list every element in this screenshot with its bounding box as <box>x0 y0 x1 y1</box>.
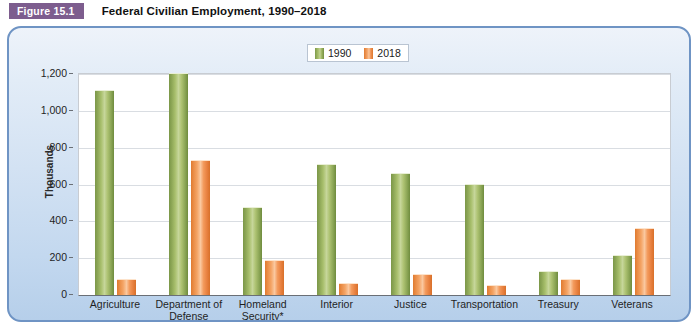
legend-label-1990: 1990 <box>328 47 351 59</box>
bar-2018 <box>561 279 580 295</box>
bar-1990 <box>243 207 262 295</box>
y-axis-tick-labels: 02004006008001,0001,200 <box>9 73 73 295</box>
x-axis-tick-label: Agriculture <box>78 298 152 310</box>
bar-group <box>153 74 227 295</box>
y-axis-tick-label: 1,200 <box>41 67 67 79</box>
y-axis-tick-label: 1,000 <box>41 104 67 116</box>
x-axis-tick-label: Transportation <box>447 298 521 310</box>
legend-item-1990: 1990 <box>315 47 351 59</box>
figure-header: Figure 15.1 Federal Civilian Employment,… <box>0 0 698 22</box>
y-axis-tick-mark <box>69 257 73 258</box>
legend-swatch-2018 <box>364 48 373 59</box>
bars-layer <box>79 74 670 295</box>
bar-2018 <box>339 283 358 295</box>
bar-1990 <box>391 173 410 295</box>
bar-2018 <box>265 260 284 295</box>
bar-group <box>227 74 301 295</box>
y-axis-tick-label: 400 <box>49 214 67 226</box>
bar-1990 <box>95 90 114 295</box>
y-axis-tick-mark <box>69 184 73 185</box>
figure-title: Federal Civilian Employment, 1990–2018 <box>102 5 327 17</box>
bar-1990 <box>317 164 336 295</box>
bar-2018 <box>191 160 210 295</box>
x-axis-tick-label: Justice <box>374 298 448 310</box>
y-axis-tick-label: 800 <box>49 141 67 153</box>
chart-legend: 1990 2018 <box>307 44 409 62</box>
legend-label-2018: 2018 <box>377 47 400 59</box>
chart-panel: 1990 2018 Thousands 02004006008001,0001,… <box>7 26 691 322</box>
x-axis-tick-label: Treasury <box>521 298 595 310</box>
figure-number-badge: Figure 15.1 <box>9 3 84 20</box>
bar-1990 <box>539 271 558 295</box>
x-axis-tick-label: Veterans <box>595 298 669 310</box>
x-axis-tick-labels: AgricultureDepartment ofDefenseHomelandS… <box>78 298 669 322</box>
legend-swatch-1990 <box>315 48 324 59</box>
x-axis-tick-label: Interior <box>300 298 374 310</box>
y-axis-tick-label: 600 <box>49 178 67 190</box>
y-axis-tick-mark <box>69 220 73 221</box>
bar-2018 <box>413 274 432 295</box>
y-axis-tick-mark <box>69 73 73 74</box>
y-axis-tick-label: 0 <box>61 288 67 300</box>
bar-1990 <box>465 184 484 295</box>
bar-group <box>79 74 153 295</box>
bar-2018 <box>635 228 654 295</box>
y-axis-tick-mark <box>69 147 73 148</box>
bar-2018 <box>487 285 506 295</box>
y-axis-tick-label: 200 <box>49 251 67 263</box>
bar-2018 <box>117 279 136 295</box>
x-axis-tick-label: HomelandSecurity* <box>226 298 300 322</box>
y-axis-tick-mark <box>69 294 73 295</box>
bar-group <box>596 74 670 295</box>
bar-group <box>301 74 375 295</box>
plot-area <box>78 73 671 296</box>
x-axis-tick-label: Department ofDefense <box>152 298 226 322</box>
y-axis-tick-mark <box>69 110 73 111</box>
bar-group <box>522 74 596 295</box>
bar-1990 <box>613 255 632 295</box>
legend-item-2018: 2018 <box>364 47 400 59</box>
bar-1990 <box>169 73 188 295</box>
bar-group <box>375 74 449 295</box>
bar-group <box>448 74 522 295</box>
